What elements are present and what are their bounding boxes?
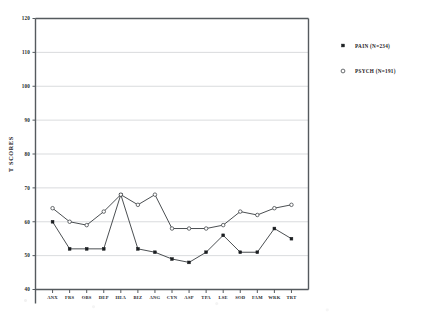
- data-point: [85, 223, 89, 227]
- data-point: [153, 193, 157, 197]
- data-point: [256, 251, 259, 254]
- data-point: [170, 227, 174, 231]
- x-tick-label-fam: FAM: [252, 295, 263, 300]
- x-tick-label-cyn: CYN: [167, 295, 178, 300]
- data-point: [188, 261, 191, 264]
- data-point: [102, 247, 105, 250]
- data-point: [239, 251, 242, 254]
- data-point: [187, 227, 191, 231]
- data-point: [119, 193, 123, 197]
- y-tick-label: 60: [25, 219, 31, 225]
- data-point: [171, 258, 174, 261]
- data-point: [290, 203, 294, 207]
- y-axis-title: T SCORES: [7, 136, 14, 172]
- chart-figure: 405060708090100110120ANXFRSOBSDEPHEABIZA…: [0, 0, 425, 313]
- x-tick-label-wrk: WRK: [268, 295, 280, 300]
- x-tick-label-ang: ANG: [149, 295, 160, 300]
- data-point: [68, 247, 71, 250]
- data-point: [221, 223, 225, 227]
- data-point: [256, 213, 260, 217]
- legend-marker-open-circle-icon: [341, 69, 345, 73]
- data-point: [273, 206, 277, 210]
- x-tick-label-hea: HEA: [115, 295, 126, 300]
- y-tick-label: 70: [25, 185, 31, 191]
- y-tick-label: 110: [22, 49, 30, 55]
- line-chart: 405060708090100110120ANXFRSOBSDEPHEABIZA…: [0, 0, 425, 313]
- x-tick-label-sod: SOD: [235, 295, 246, 300]
- x-tick-label-tpa: TPA: [201, 295, 211, 300]
- data-point: [205, 251, 208, 254]
- x-tick-label-dep: DEP: [99, 295, 109, 300]
- series-psych: [51, 193, 293, 230]
- data-point: [85, 247, 88, 250]
- data-point: [136, 203, 140, 207]
- x-tick-label-lse: LSE: [218, 295, 227, 300]
- data-point: [239, 210, 243, 214]
- data-point: [68, 220, 72, 224]
- data-point: [290, 237, 293, 240]
- y-tick-label: 100: [22, 83, 30, 89]
- legend-marker-filled-circle-icon: [342, 44, 345, 47]
- x-tick-label-obs: OBS: [82, 295, 92, 300]
- data-point: [136, 247, 139, 250]
- x-tick-label-biz: BIZ: [134, 295, 143, 300]
- data-point: [102, 210, 106, 214]
- y-tick-label: 120: [22, 15, 30, 21]
- y-tick-label: 90: [25, 117, 31, 123]
- x-tick-label-asp: ASP: [184, 295, 193, 300]
- data-point: [273, 227, 276, 230]
- data-point: [222, 234, 225, 237]
- legend-label-1: PSYCH (N=191): [355, 68, 396, 75]
- series-line-psych: [53, 195, 292, 229]
- y-tick-label: 80: [25, 151, 31, 157]
- data-point: [51, 220, 54, 223]
- y-tick-label: 40: [25, 286, 31, 292]
- x-tick-label-frs: FRS: [65, 295, 75, 300]
- x-tick-label-anx: ANX: [47, 295, 58, 300]
- legend-label-0: PAIN (N=234): [355, 43, 390, 50]
- data-point: [204, 227, 208, 231]
- data-point: [51, 206, 55, 210]
- y-tick-label: 50: [25, 252, 31, 258]
- data-point: [154, 251, 157, 254]
- x-tick-label-trt: TRT: [286, 295, 296, 300]
